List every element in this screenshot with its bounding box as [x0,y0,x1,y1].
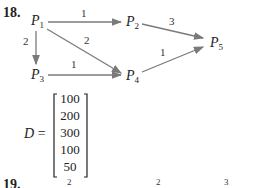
matrix-entry-5: 50 [53,159,87,175]
matrix-entry-3: 300 [53,125,87,141]
matrix-entry-2: 200 [53,108,87,124]
matrix-entry-1: 100 [53,91,87,107]
matrix-entry-4: 100 [53,142,87,158]
matrix-brackets [0,0,264,188]
p19-weight-1: 2 [67,177,72,187]
p19-weight-3: 3 [224,177,229,187]
p19-weight-2: 2 [156,177,161,187]
problem-number-19: 19. [3,177,21,188]
